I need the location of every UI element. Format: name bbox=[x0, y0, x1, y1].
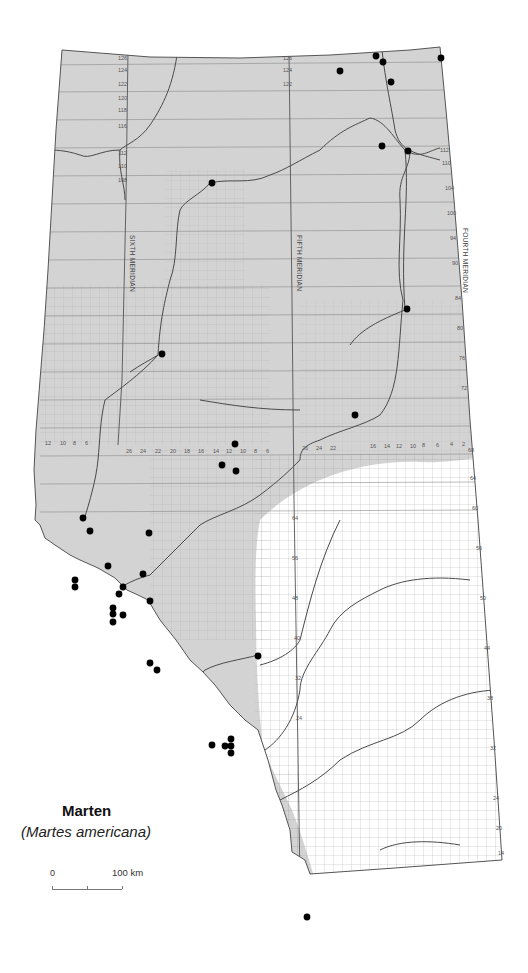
fifth-meridian-label: FIFTH MERIDIAN bbox=[296, 235, 303, 291]
record-dot bbox=[80, 515, 87, 522]
svg-text:10: 10 bbox=[240, 448, 246, 454]
svg-text:12: 12 bbox=[396, 443, 402, 449]
record-dot bbox=[120, 584, 127, 591]
record-dot bbox=[146, 530, 153, 537]
record-dot bbox=[404, 306, 411, 313]
svg-text:116: 116 bbox=[118, 123, 127, 129]
record-dot bbox=[209, 742, 216, 749]
svg-text:14: 14 bbox=[498, 850, 504, 856]
record-dot bbox=[159, 351, 166, 358]
record-dot bbox=[380, 59, 387, 66]
svg-text:20: 20 bbox=[496, 825, 502, 831]
record-dot bbox=[438, 55, 445, 62]
svg-text:24: 24 bbox=[493, 795, 499, 801]
record-dot bbox=[228, 750, 235, 757]
svg-text:56: 56 bbox=[292, 555, 298, 561]
svg-text:122: 122 bbox=[283, 81, 292, 87]
record-dot bbox=[147, 660, 154, 667]
svg-text:4: 4 bbox=[450, 441, 453, 447]
record-dot bbox=[228, 736, 235, 743]
record-dot bbox=[110, 605, 117, 612]
svg-text:124: 124 bbox=[118, 67, 127, 73]
record-dot bbox=[110, 619, 117, 626]
svg-text:68: 68 bbox=[468, 447, 474, 453]
svg-text:22: 22 bbox=[155, 448, 161, 454]
svg-text:108: 108 bbox=[118, 177, 127, 183]
scale-line bbox=[52, 889, 122, 890]
svg-text:32: 32 bbox=[490, 745, 496, 751]
record-dot bbox=[304, 914, 311, 921]
svg-text:8: 8 bbox=[73, 440, 76, 446]
svg-text:126: 126 bbox=[283, 55, 292, 61]
svg-text:76: 76 bbox=[459, 355, 465, 361]
record-dot bbox=[72, 577, 79, 584]
svg-text:40: 40 bbox=[294, 635, 300, 641]
svg-text:32: 32 bbox=[295, 675, 301, 681]
scale-tick bbox=[122, 886, 123, 889]
record-dot bbox=[154, 667, 161, 674]
svg-text:38: 38 bbox=[487, 695, 493, 701]
scale-tick bbox=[87, 886, 88, 889]
svg-text:50: 50 bbox=[480, 595, 486, 601]
record-dot bbox=[228, 743, 235, 750]
species-scientific-name: (Martes americana) bbox=[21, 823, 151, 840]
svg-text:18: 18 bbox=[184, 448, 190, 454]
svg-text:20: 20 bbox=[170, 448, 176, 454]
map-title: Marten bbox=[62, 802, 111, 819]
svg-text:44: 44 bbox=[484, 645, 490, 651]
scale-zero-label: 0 bbox=[50, 868, 55, 878]
record-dot bbox=[373, 53, 380, 60]
fourth-meridian-label: FOURTH MERIDIAN bbox=[462, 228, 469, 293]
svg-text:24: 24 bbox=[316, 445, 322, 451]
svg-text:60: 60 bbox=[472, 505, 478, 511]
svg-text:112: 112 bbox=[118, 150, 127, 156]
record-dot bbox=[405, 148, 412, 155]
svg-text:112: 112 bbox=[440, 147, 449, 153]
svg-text:64: 64 bbox=[470, 475, 476, 481]
svg-text:100: 100 bbox=[447, 210, 456, 216]
record-dot bbox=[140, 571, 147, 578]
record-dot bbox=[120, 612, 127, 619]
svg-text:6: 6 bbox=[266, 448, 269, 454]
svg-text:124: 124 bbox=[283, 67, 292, 73]
record-dot bbox=[105, 563, 112, 570]
svg-text:26: 26 bbox=[302, 445, 308, 451]
record-dot bbox=[255, 653, 262, 660]
svg-text:48: 48 bbox=[292, 595, 298, 601]
record-dot bbox=[379, 143, 386, 150]
record-dot bbox=[110, 611, 117, 618]
svg-text:80: 80 bbox=[457, 325, 463, 331]
svg-text:12: 12 bbox=[226, 448, 232, 454]
record-dot bbox=[72, 584, 79, 591]
svg-text:10: 10 bbox=[410, 443, 416, 449]
svg-text:72: 72 bbox=[461, 385, 467, 391]
svg-text:8: 8 bbox=[422, 442, 425, 448]
svg-text:10: 10 bbox=[60, 440, 66, 446]
svg-text:122: 122 bbox=[118, 81, 127, 87]
svg-text:104: 104 bbox=[445, 185, 454, 191]
record-dot bbox=[147, 598, 154, 605]
record-dot bbox=[87, 528, 94, 535]
svg-text:24: 24 bbox=[296, 715, 302, 721]
svg-text:110: 110 bbox=[118, 163, 127, 169]
svg-text:118: 118 bbox=[118, 107, 127, 113]
svg-text:126: 126 bbox=[118, 55, 127, 61]
svg-text:56: 56 bbox=[476, 545, 482, 551]
svg-text:16: 16 bbox=[370, 443, 376, 449]
svg-text:64: 64 bbox=[292, 515, 298, 521]
svg-text:16: 16 bbox=[198, 448, 204, 454]
svg-text:22: 22 bbox=[330, 445, 336, 451]
svg-text:120: 120 bbox=[118, 95, 127, 101]
svg-text:2: 2 bbox=[462, 441, 465, 447]
svg-text:94: 94 bbox=[450, 235, 456, 241]
svg-text:26: 26 bbox=[126, 448, 132, 454]
svg-text:24: 24 bbox=[140, 448, 146, 454]
sixth-meridian-label: SIXTH MERIDIAN bbox=[129, 235, 136, 292]
record-dot bbox=[337, 68, 344, 75]
record-dot bbox=[352, 412, 359, 419]
scale-max-label: 100 km bbox=[112, 867, 143, 878]
svg-text:6: 6 bbox=[436, 442, 439, 448]
record-dot bbox=[116, 591, 123, 598]
svg-text:14: 14 bbox=[384, 443, 390, 449]
svg-text:8: 8 bbox=[254, 448, 257, 454]
